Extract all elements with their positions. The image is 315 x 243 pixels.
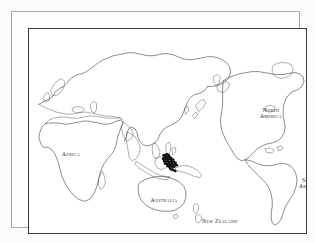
map-label-south-america-line1: South bbox=[302, 177, 307, 183]
coastline-black-caspian-seas bbox=[73, 101, 97, 113]
map-label-north-america: North America bbox=[251, 107, 291, 120]
coastline-europe-south bbox=[39, 104, 121, 118]
map-label-africa: Africa bbox=[51, 151, 91, 157]
coastline-philippines bbox=[166, 142, 176, 155]
map-label-australia: Australia bbox=[142, 197, 186, 203]
coastline-new-guinea bbox=[176, 166, 202, 178]
coastline-caribbean bbox=[265, 146, 283, 153]
occurrence-dot bbox=[175, 164, 178, 167]
coastline-tasmania bbox=[174, 214, 178, 219]
coastline-australia bbox=[138, 177, 186, 212]
coastline-asia-east bbox=[124, 86, 207, 145]
coastline-new-zealand bbox=[194, 203, 202, 223]
occurrence-dot bbox=[172, 158, 175, 161]
map-label-south-america: South America bbox=[291, 177, 307, 190]
coastline-britain bbox=[43, 92, 50, 102]
coastline-south-america bbox=[245, 160, 297, 225]
figure-root: Africa North America South America Austr… bbox=[0, 0, 315, 243]
figure-inner-frame: Africa North America South America Austr… bbox=[28, 28, 307, 234]
map-label-north-america-line2: America bbox=[260, 113, 282, 119]
figure-outer-frame: Africa North America South America Austr… bbox=[11, 11, 300, 228]
coastline-greenland bbox=[272, 63, 293, 79]
coastline-eurasia-north bbox=[39, 53, 231, 104]
map-label-new-zealand: New Zealand bbox=[202, 218, 254, 224]
coastline-indochina bbox=[152, 143, 160, 159]
map-label-north-america-line1: North bbox=[263, 107, 279, 113]
coastline-japan bbox=[193, 99, 206, 118]
map-label-south-america-line2: America bbox=[299, 183, 307, 189]
coastline-africa bbox=[39, 120, 123, 201]
occurrence-dot bbox=[173, 165, 176, 168]
occurrence-dot-cluster bbox=[162, 153, 178, 172]
occurrence-dot bbox=[174, 170, 177, 173]
